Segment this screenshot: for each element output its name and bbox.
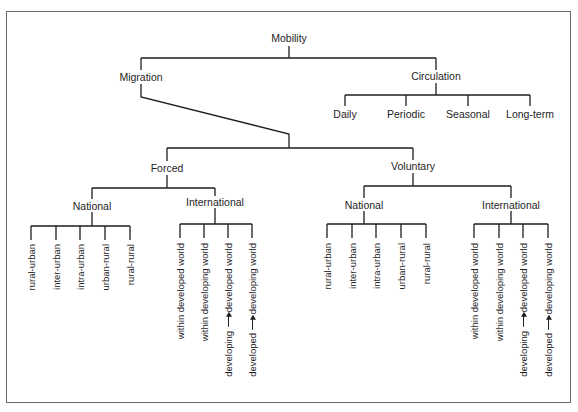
node-voluntary: Voluntary	[391, 160, 435, 172]
arrow-icon	[247, 314, 258, 330]
leaf-forced-within-developing: within developing world	[199, 243, 210, 341]
leaf-voluntary-intra-urban: intra-urban	[371, 243, 382, 289]
leaf-from: developed	[247, 330, 258, 376]
leaf-from: developing	[223, 328, 234, 377]
node-long-term: Long-term	[506, 108, 554, 120]
leaf-forced-rural-rural: rural-rural	[125, 244, 136, 285]
leaf-to: developing world	[247, 243, 258, 314]
leaf-from: developed	[543, 330, 554, 376]
arrow-icon	[518, 312, 529, 328]
node-seasonal: Seasonal	[446, 108, 490, 120]
node-daily: Daily	[333, 108, 356, 120]
node-circulation: Circulation	[411, 70, 461, 82]
leaf-forced-inter-urban: inter-urban	[51, 244, 62, 290]
leaf-voluntary-rural-rural: rural-rural	[421, 243, 432, 284]
node-forced-national: National	[73, 200, 112, 212]
leaf-to: developing world	[543, 243, 554, 314]
leaf-voluntary-developed-to-developing: developed developing world	[543, 243, 554, 377]
leaf-voluntary-developing-to-developed: developing developed world	[518, 243, 529, 377]
arrow-icon	[543, 314, 554, 330]
leaf-to: developed world	[518, 243, 529, 312]
leaf-forced-intra-urban: intra-urban	[75, 244, 86, 290]
leaf-to: developed world	[223, 243, 234, 312]
leaf-forced-rural-urban: rural-urban	[26, 244, 37, 290]
node-voluntary-national: National	[345, 199, 384, 211]
node-migration: Migration	[119, 71, 162, 83]
node-mobility: Mobility	[271, 32, 307, 44]
leaf-voluntary-within-developing: within developing world	[494, 243, 505, 341]
leaf-voluntary-urban-rural: urban-rural	[396, 243, 407, 289]
leaf-voluntary-rural-urban: rural-urban	[322, 243, 333, 289]
leaf-voluntary-within-developed: within developed world	[469, 243, 480, 339]
leaf-forced-urban-rural: urban-rural	[100, 244, 111, 290]
node-forced-international: International	[186, 196, 244, 208]
leaf-forced-developing-to-developed: developing developed world	[223, 243, 234, 377]
leaf-forced-within-developed: within developed world	[175, 243, 186, 339]
leaf-voluntary-inter-urban: inter-urban	[347, 243, 358, 289]
arrow-icon	[223, 312, 234, 328]
node-forced: Forced	[151, 162, 184, 174]
node-voluntary-international: International	[482, 199, 540, 211]
leaf-forced-developed-to-developing: developed developing world	[247, 243, 258, 377]
node-periodic: Periodic	[387, 108, 425, 120]
leaf-from: developing	[518, 328, 529, 377]
